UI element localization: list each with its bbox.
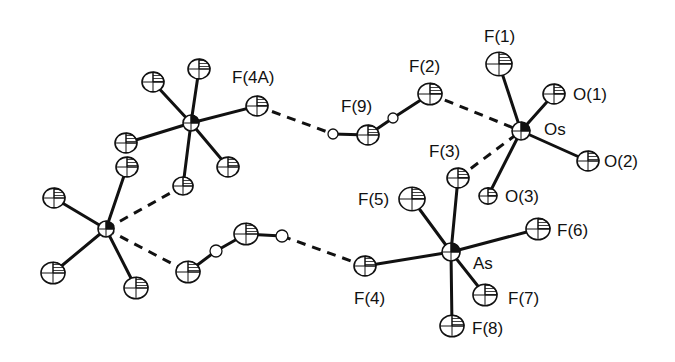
label-f5: F(5) xyxy=(358,191,389,208)
atom-fc1 xyxy=(176,261,200,283)
atom-as xyxy=(442,243,460,261)
atom-hc1 xyxy=(210,245,222,257)
atom-o2 xyxy=(577,151,599,171)
atom-f4 xyxy=(354,256,376,276)
atom-f3 xyxy=(447,168,469,188)
label-f2: F(2) xyxy=(409,58,440,75)
label-f1: F(1) xyxy=(484,28,515,45)
label-f4a: F(4A) xyxy=(232,69,275,86)
label-f4: F(4) xyxy=(354,290,385,307)
atom-asa xyxy=(183,115,199,131)
label-as: As xyxy=(473,255,493,272)
atom-f9 xyxy=(357,125,379,145)
atom-fa3 xyxy=(115,133,137,153)
atom-fb1 xyxy=(43,188,65,208)
label-f8: F(8) xyxy=(472,320,503,337)
atom-f4a xyxy=(246,96,268,116)
atom-fb2 xyxy=(41,262,65,284)
label-os: Os xyxy=(544,121,566,138)
bond-As-F6 xyxy=(451,229,538,252)
contact-F2-Os xyxy=(430,94,521,131)
label-o2: O(2) xyxy=(604,153,638,170)
bond-As-F3 xyxy=(451,178,458,252)
label-f9: F(9) xyxy=(341,98,372,115)
atom-asb xyxy=(98,221,114,237)
atom-fa1 xyxy=(142,72,164,92)
label-f3: F(3) xyxy=(429,143,460,160)
atom-hc2 xyxy=(276,230,288,242)
atom-f1 xyxy=(486,52,512,75)
atom-fa6 xyxy=(116,157,138,177)
atom-f8 xyxy=(440,315,464,337)
atom-os xyxy=(512,122,530,140)
atom-fa5 xyxy=(173,177,193,195)
atom-h9b xyxy=(328,129,338,139)
bond-As-F4 xyxy=(365,252,451,266)
atom-o1 xyxy=(543,84,565,104)
label-o3: O(3) xyxy=(505,188,539,205)
atom-f2 xyxy=(418,83,442,105)
molecular-structure-diagram xyxy=(0,0,675,362)
atom-fb3 xyxy=(124,277,148,299)
label-f6: F(6) xyxy=(557,222,588,239)
atom-fa2 xyxy=(188,59,210,79)
contact-F4A-H9b xyxy=(257,106,333,134)
atom-f6 xyxy=(526,218,550,240)
label-o1: O(1) xyxy=(573,86,607,103)
atom-o3 xyxy=(479,188,497,204)
atom-h9a xyxy=(388,113,398,123)
label-f7: F(7) xyxy=(508,290,539,307)
atom-f5 xyxy=(399,187,425,210)
atom-fc2 xyxy=(234,223,258,245)
atom-fa4 xyxy=(217,157,239,177)
atom-f7 xyxy=(473,284,497,306)
contact-F3-Os xyxy=(458,131,521,178)
contact-HC2-F4 xyxy=(282,236,365,266)
